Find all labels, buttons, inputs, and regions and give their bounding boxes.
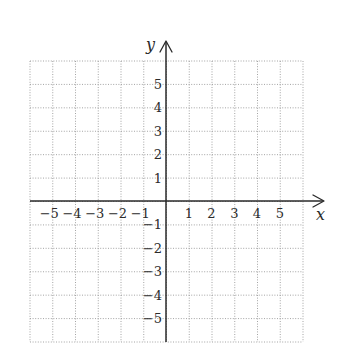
y-axis-label: y bbox=[145, 35, 156, 54]
x-tick-label: 2 bbox=[207, 206, 215, 221]
y-tick-label: −3 bbox=[143, 264, 162, 279]
coordinate-plane: x y −5−4−3−2−112345 54321−1−2−3−4−5 bbox=[0, 0, 345, 353]
y-tick-label: −2 bbox=[143, 241, 162, 256]
y-tick-label: 2 bbox=[154, 147, 162, 162]
x-tick-label: 5 bbox=[276, 206, 284, 221]
x-tick-label: −4 bbox=[62, 206, 81, 221]
x-tick-label: −2 bbox=[108, 206, 127, 221]
x-tick-label: −3 bbox=[85, 206, 104, 221]
x-tick-label: 3 bbox=[230, 206, 238, 221]
y-tick-label: −4 bbox=[143, 288, 162, 303]
x-tick-label: 1 bbox=[185, 206, 193, 221]
y-tick-label: 4 bbox=[154, 100, 162, 115]
y-tick-label: 5 bbox=[154, 77, 162, 92]
y-tick-label: −1 bbox=[143, 217, 162, 232]
y-tick-label: −5 bbox=[143, 311, 162, 326]
y-tick-label: 3 bbox=[154, 124, 162, 139]
x-tick-label: 4 bbox=[253, 206, 261, 221]
x-axis-label: x bbox=[316, 205, 325, 224]
x-tick-label: −5 bbox=[40, 206, 59, 221]
y-tick-label: 1 bbox=[154, 171, 162, 186]
